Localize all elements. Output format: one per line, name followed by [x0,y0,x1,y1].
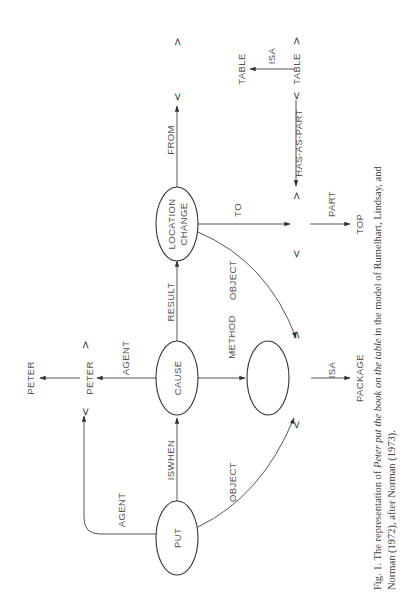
node-table-instance: TABLE [291,53,302,84]
gt-marker-peter: > [79,340,92,349]
label-to: TO [232,203,243,217]
label-from: FROM [165,125,176,155]
node-put-label: PUT [172,528,183,548]
gt-marker-part: > [290,191,303,200]
gt-marker-table: > [290,36,303,45]
lt-marker-peter: < [79,407,92,416]
label-part: PART [326,191,337,217]
node-package: PACKAGE [354,354,365,402]
label-method: METHOD [226,315,237,359]
lt-marker-part: < [290,249,303,258]
edge-put-object [198,418,294,527]
node-location-change-label-2: CHANGE [178,202,189,245]
node-location-change-label-1: LOCATION [166,198,177,249]
label-put-agent: AGENT [116,493,127,528]
label-lc-object: OBJECT [227,260,238,300]
node-location-change [156,187,198,261]
edge-lc-object [198,232,296,338]
lt-marker-package: < [290,420,303,429]
node-table-concept: TABLE [236,53,247,84]
lt-marker-from: < [171,92,184,101]
gt-marker-from: > [171,37,184,46]
caption-line-2: Norman (1972), after Norman (1973). [386,430,398,590]
node-method [247,341,289,415]
caption-prefix: Fig. 1. The representation of [372,468,383,590]
lt-marker-table: < [290,91,303,100]
node-cause-label: CAUSE [172,361,183,396]
caption-line-1: Fig. 1. The representation of Peter put … [372,166,383,590]
figure-caption: Fig. 1. The representation of Peter put … [372,166,398,590]
node-peter-instance: PETER [84,361,95,395]
caption-suffix: in the model of Rumelhart, Lindsay, and [372,166,383,339]
label-result: RESULT [165,282,176,321]
node-top: TOP [354,214,365,235]
caption-italic: Peter put the book on the table [372,338,383,469]
gt-marker-package: > [290,330,303,339]
edge-labels: AGENT ISWHEN OBJECT AGENT RESULT METHOD … [116,47,337,527]
semantic-network-figure: PUT CAUSE LOCATION CHANGE AGENT ISWHEN O… [0,0,413,604]
label-has-as-part: HAS-AS-PART [293,109,304,176]
label-package-isa: ISA [326,361,337,378]
node-peter-concept: PETER [25,361,36,395]
label-table-isa: ISA [266,47,277,64]
label-put-object: OBJECT [227,462,238,502]
label-cause-agent: AGENT [120,341,131,376]
label-iswhen: ISWHEN [165,440,176,480]
